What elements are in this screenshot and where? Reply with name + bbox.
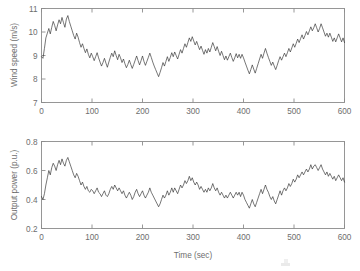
x-tick-label: 500 [287, 233, 301, 242]
x-tick-label: 600 [338, 233, 352, 242]
wind-power-figure: 7891011 0100200300400500600 Wind speed (… [0, 0, 360, 271]
x-tick-label: 200 [136, 107, 150, 116]
top-x-tick-marks [42, 9, 345, 103]
bottom-y-tick-marks [42, 142, 46, 229]
y-tick-label: 0.8 [26, 138, 38, 147]
bottom-x-tick-labels: 0100200300400500600 [39, 233, 352, 242]
y-tick-label: 0.4 [26, 196, 38, 205]
bottom-y-tick-labels: 0.20.40.60.8 [26, 138, 38, 234]
top-plot-frame [42, 9, 345, 103]
y-tick-label: 10 [28, 28, 38, 37]
wind-speed-trace [42, 16, 345, 77]
x-tick-label: 600 [338, 107, 352, 116]
bottom-y-axis-label: Output power (p.u.) [10, 149, 19, 220]
y-tick-label: 7 [33, 99, 38, 108]
y-tick-label: 0.2 [26, 225, 38, 234]
bottom-panel: 0.20.40.60.8 0100200300400500600 Output … [10, 138, 352, 261]
top-x-tick-labels: 0100200300400500600 [39, 107, 352, 116]
top-panel: 7891011 0100200300400500600 Wind speed (… [10, 5, 352, 116]
y-tick-label: 9 [33, 52, 38, 61]
x-tick-label: 400 [237, 233, 251, 242]
x-tick-label: 300 [186, 233, 200, 242]
output-power-trace [42, 157, 345, 208]
x-tick-label: 300 [186, 107, 200, 116]
bottom-x-tick-marks [42, 142, 345, 229]
bottom-plot-frame [42, 142, 345, 229]
x-tick-label: 500 [287, 107, 301, 116]
y-tick-label: 0.6 [26, 167, 38, 176]
x-tick-label: 0 [39, 233, 44, 242]
x-tick-label: 400 [237, 107, 251, 116]
chart-canvas: 7891011 0100200300400500600 Wind speed (… [0, 0, 360, 271]
x-tick-label: 100 [85, 233, 99, 242]
x-tick-label: 100 [85, 107, 99, 116]
top-y-tick-labels: 7891011 [28, 5, 38, 108]
y-tick-label: 11 [29, 5, 38, 14]
scan-artifact [281, 259, 290, 266]
top-y-axis-label: Wind speed (m/s) [10, 23, 19, 87]
bottom-x-axis-label: Time (sec) [174, 251, 213, 260]
x-tick-label: 0 [39, 107, 44, 116]
y-tick-label: 8 [33, 75, 38, 84]
x-tick-label: 200 [136, 233, 150, 242]
